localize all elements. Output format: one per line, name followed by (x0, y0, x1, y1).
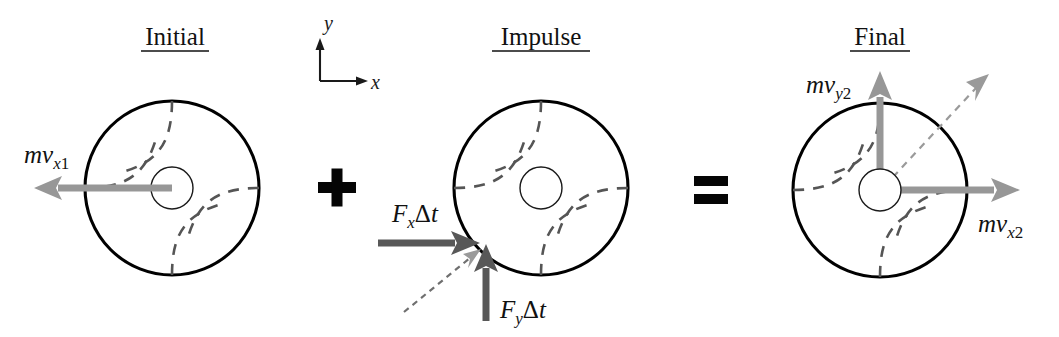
x-axis-arrowhead (356, 77, 368, 86)
panel-impulse: Impulse FxΔt (378, 23, 628, 328)
equals-top-bar (694, 176, 728, 186)
equals-bottom-bar (694, 194, 728, 204)
mv-y2-label: mvy2 (806, 71, 851, 103)
panel-title-impulse: Impulse (501, 23, 582, 50)
mv-x2-label: mvx2 (978, 210, 1023, 242)
figure-canvas: y x Initial mvx1 (0, 0, 1059, 337)
y-axis-arrowhead (316, 38, 325, 50)
panel-title-initial: Initial (145, 23, 205, 50)
mv-x1-label: mvx1 (24, 141, 69, 173)
hub-ring-outline (859, 169, 901, 211)
mv-y2-arrowhead (868, 71, 892, 100)
hub-ring-outline (520, 167, 562, 209)
impulse-resultant-shaft (404, 258, 470, 312)
ball-hub-final (859, 169, 901, 211)
fx-delta-t-label: FxΔt (391, 200, 439, 232)
fx-delta-t-vector (378, 231, 480, 255)
plus-vertical-bar (332, 169, 343, 207)
mv-x2-arrowhead (991, 178, 1020, 202)
mv-resultant-arrowhead (966, 74, 989, 101)
panel-initial: Initial mvx1 (24, 23, 259, 275)
panel-title-final: Final (854, 23, 905, 50)
coordinate-axes-legend: y x (316, 12, 381, 93)
y-axis-label: y (322, 12, 333, 35)
impulse-resultant-dashed-vector (404, 249, 481, 312)
ball-hub-impulse (520, 167, 562, 209)
fy-delta-t-label: FyΔt (499, 296, 547, 328)
panel-final: Final mvy2 mvx2 (793, 23, 1023, 277)
mv-x1-arrowhead (34, 176, 62, 200)
x-axis-label: x (370, 71, 380, 93)
momentum-impulse-figure: y x Initial mvx1 (0, 0, 1059, 337)
